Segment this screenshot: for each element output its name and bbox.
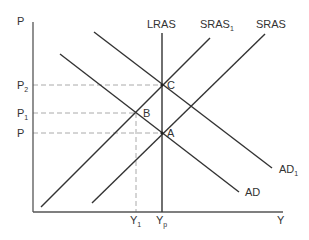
point-a-marker: [160, 131, 163, 134]
label-y1: Y1: [130, 214, 141, 228]
point-c-marker: [160, 83, 163, 86]
sras1-curve: [41, 38, 210, 207]
label-yp: Yp: [156, 214, 167, 229]
label-p: P: [17, 127, 24, 139]
y-axis-label: P: [17, 15, 24, 27]
label-sras1: SRAS1: [200, 18, 234, 32]
curves: [41, 32, 272, 212]
label-point-a: A: [167, 127, 175, 139]
label-ad1: AD1: [279, 163, 298, 177]
axes: [33, 22, 283, 212]
label-ad: AD: [245, 186, 260, 198]
sras-curve: [92, 34, 265, 203]
label-point-c: C: [167, 79, 175, 91]
label-p2: P2: [17, 79, 28, 93]
ad-as-diagram: P Y P2 P1 P Y1 Yp LRAS SRAS1 SRAS AD1 AD…: [0, 0, 309, 240]
x-axis-label: Y: [277, 214, 285, 226]
guide-lines: [33, 85, 162, 212]
label-p1: P1: [17, 107, 28, 121]
label-lras: LRAS: [147, 18, 176, 30]
label-sras: SRAS: [256, 18, 286, 30]
label-point-b: B: [143, 107, 150, 119]
